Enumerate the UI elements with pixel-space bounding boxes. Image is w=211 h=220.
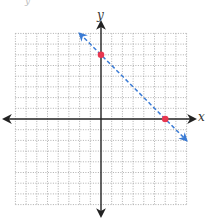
- intercept-point: [98, 52, 105, 59]
- intercept-point: [162, 116, 169, 123]
- coordinate-plane: [0, 0, 211, 220]
- x-axis-label: x: [198, 110, 205, 124]
- y-axis-label: y: [97, 8, 104, 22]
